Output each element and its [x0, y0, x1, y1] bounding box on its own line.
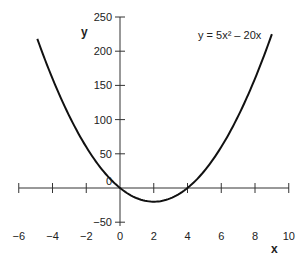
parabola-chart: −6−4−20246810 −50050100150200250 y x y =… [0, 0, 308, 267]
x-tick-label: 4 [184, 230, 190, 242]
y-tick-label: 50 [100, 148, 112, 160]
x-ticks: −6−4−20246810 [12, 183, 294, 242]
x-tick-label: −4 [46, 230, 59, 242]
axes [19, 17, 289, 226]
y-tick-label: 200 [94, 45, 112, 57]
x-tick-label: 8 [252, 230, 258, 242]
x-axis-title: x [271, 242, 278, 256]
y-axis-title: y [81, 25, 88, 39]
y-tick-label: 150 [94, 79, 112, 91]
x-tick-label: 2 [151, 230, 157, 242]
x-tick-label: 6 [218, 230, 224, 242]
y-tick-label: 100 [94, 114, 112, 126]
y-tick-label: 250 [94, 11, 112, 23]
x-tick-label: 0 [117, 230, 123, 242]
y-tick-label: −50 [93, 216, 112, 228]
x-tick-label: 10 [283, 230, 295, 242]
x-tick-label: −6 [12, 230, 25, 242]
x-tick-label: −2 [80, 230, 93, 242]
equation-label: y = 5x² – 20x [198, 29, 262, 41]
parabola-curve [37, 34, 272, 202]
